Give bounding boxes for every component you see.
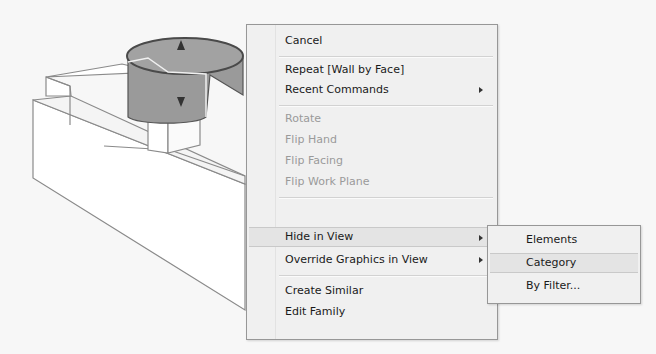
menu-item-label: Flip Facing <box>285 154 343 167</box>
menu-item-label: Hide in View <box>285 230 353 243</box>
menu-item-flip-facing[interactable]: Flip Facing <box>249 151 495 171</box>
menu-item-label: Rotate <box>285 112 321 125</box>
menu-item-label: By Filter... <box>526 279 580 292</box>
menu-item-label: Elements <box>526 233 577 246</box>
menu-separator <box>279 197 493 199</box>
submenu-arrow-icon <box>479 235 483 241</box>
submenu-arrow-icon <box>479 87 483 93</box>
menu-item-label: Flip Hand <box>285 133 337 146</box>
menu-item-repeat[interactable]: Repeat [Wall by Face] <box>249 60 495 80</box>
menu-item-flip-hand[interactable]: Flip Hand <box>249 130 495 150</box>
menu-item-label: Override Graphics in View <box>285 253 428 266</box>
menu-item-label: Category <box>526 256 576 269</box>
curved-wall[interactable] <box>127 38 243 123</box>
menu-item-edit-family[interactable]: Edit Family <box>249 302 495 322</box>
menu-item-label: Flip Work Plane <box>285 175 369 188</box>
menu-separator <box>279 105 493 107</box>
menu-item-label: Edit Family <box>285 305 345 318</box>
menu-item-hide-in-view[interactable]: Hide in View <box>249 227 495 247</box>
menu-separator <box>279 56 493 58</box>
menu-item-label: Create Similar <box>285 284 363 297</box>
context-menu: Cancel Repeat [Wall by Face] Recent Comm… <box>246 24 498 340</box>
menu-item-cancel[interactable]: Cancel <box>249 31 495 51</box>
submenu-item-by-filter[interactable]: By Filter... <box>490 276 638 296</box>
menu-item-flip-work-plane[interactable]: Flip Work Plane <box>249 172 495 192</box>
menu-item-override-graphics[interactable]: Override Graphics in View <box>249 250 495 270</box>
menu-separator <box>279 275 493 277</box>
menu-item-label: Cancel <box>285 34 322 47</box>
hide-in-view-submenu: Elements Category By Filter... <box>487 225 641 304</box>
menu-item-recent-commands[interactable]: Recent Commands <box>249 80 495 100</box>
menu-item-label: Repeat [Wall by Face] <box>285 63 404 76</box>
menu-item-create-similar[interactable]: Create Similar <box>249 281 495 301</box>
menu-item-rotate[interactable]: Rotate <box>249 109 495 129</box>
submenu-arrow-icon <box>479 257 483 263</box>
submenu-item-category[interactable]: Category <box>490 253 638 273</box>
menu-item-label: Recent Commands <box>285 83 389 96</box>
submenu-item-elements[interactable]: Elements <box>490 230 638 250</box>
